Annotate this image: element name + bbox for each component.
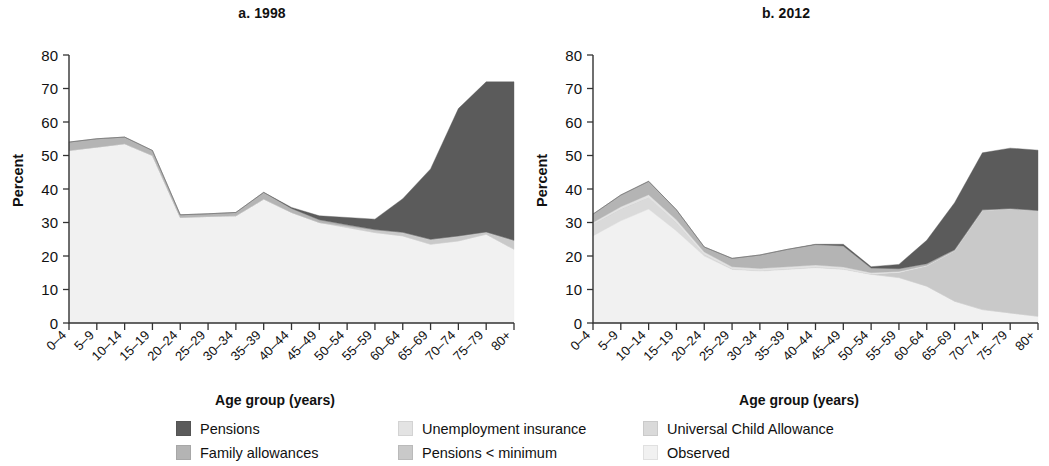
x-tick-label: 15–19 [640, 328, 676, 364]
legend-swatch-observed [643, 445, 658, 460]
legend-swatch-universal_child_allowance [643, 421, 658, 436]
y-tick-label: 10 [565, 281, 582, 298]
y-tick-label: 80 [41, 47, 58, 64]
chart-panel-a: a. 1998 Percent 010203040506070800–45–91… [0, 0, 524, 412]
x-tick-label: 50–54 [311, 328, 347, 364]
legend-item-unemployment_insurance[interactable]: Unemployment insurance [398, 418, 643, 439]
x-tick-label: 20–24 [144, 328, 180, 364]
figure-stacked-area-charts: a. 1998 Percent 010203040506070800–45–91… [0, 0, 1049, 466]
x-tick-label: 40–44 [779, 328, 815, 364]
panel-a-x-axis-label: Age group (years) [40, 392, 510, 408]
x-tick-label: 40–44 [255, 328, 291, 364]
legend-label-unemployment_insurance: Unemployment insurance [422, 421, 586, 437]
y-tick-label: 60 [565, 114, 582, 131]
legend-item-pensions[interactable]: Pensions [176, 418, 398, 439]
legend-swatch-unemployment_insurance [398, 421, 413, 436]
y-tick-label: 30 [41, 214, 58, 231]
legend-item-universal_child_allowance[interactable]: Universal Child Allowance [643, 418, 873, 439]
x-tick-label: 30–34 [200, 328, 236, 364]
y-tick-label: 10 [41, 281, 58, 298]
legend-item-pensions_below_minimum[interactable]: Pensions < minimum [398, 442, 643, 463]
legend-label-pensions: Pensions [200, 421, 260, 437]
legend-label-universal_child_allowance: Universal Child Allowance [667, 421, 834, 437]
y-tick-label: 70 [41, 80, 58, 97]
x-tick-label: 50–54 [835, 328, 871, 364]
x-tick-label: 70–74 [946, 328, 982, 364]
legend-column-2: Unemployment insurancePensions < minimum [398, 418, 643, 463]
x-tick-label: 15–19 [116, 328, 152, 364]
x-tick-label: 0–4 [567, 328, 593, 354]
x-tick-label: 55–59 [339, 328, 375, 364]
x-tick-label: 35–39 [752, 328, 788, 364]
x-tick-label: 25–29 [696, 328, 732, 364]
y-tick-label: 70 [565, 80, 582, 97]
legend-swatch-pensions_below_minimum [398, 445, 413, 460]
chart-panel-b: b. 2012 Percent 010203040506070800–45–91… [524, 0, 1048, 412]
legend-column-3: Universal Child AllowanceObserved [643, 418, 873, 463]
x-tick-label: 70–74 [422, 328, 458, 364]
x-tick-label: 10–14 [613, 328, 649, 364]
x-tick-label: 35–39 [228, 328, 264, 364]
legend-item-observed[interactable]: Observed [643, 442, 873, 463]
x-tick-label: 75–79 [450, 328, 486, 364]
legend-label-pensions_below_minimum: Pensions < minimum [422, 445, 557, 461]
x-tick-label: 45–49 [283, 328, 319, 364]
panel-b-plot: 010203040506070800–45–910–1415–1920–2425… [524, 0, 1048, 412]
y-tick-label: 50 [41, 147, 58, 164]
y-tick-label: 60 [41, 114, 58, 131]
x-tick-label: 75–79 [974, 328, 1010, 364]
y-tick-label: 20 [41, 248, 58, 265]
legend-column-1: PensionsFamily allowances [176, 418, 398, 463]
y-tick-label: 40 [565, 181, 582, 198]
legend-label-observed: Observed [667, 445, 730, 461]
panel-a-plot: 010203040506070800–45–910–1415–1920–2425… [0, 0, 524, 412]
x-tick-label: 55–59 [863, 328, 899, 364]
chart-panels: a. 1998 Percent 010203040506070800–45–91… [0, 0, 1049, 412]
x-tick-label: 60–64 [891, 328, 927, 364]
x-tick-label: 80+ [1012, 328, 1038, 354]
x-tick-label: 80+ [488, 328, 514, 354]
y-tick-label: 80 [565, 47, 582, 64]
y-tick-label: 40 [41, 181, 58, 198]
x-tick-label: 65–69 [919, 328, 955, 364]
legend-item-family_allowances[interactable]: Family allowances [176, 442, 398, 463]
x-tick-label: 10–14 [89, 328, 125, 364]
x-tick-label: 65–69 [395, 328, 431, 364]
x-tick-label: 30–34 [724, 328, 760, 364]
panel-b-x-axis-label: Age group (years) [564, 392, 1034, 408]
x-tick-label: 45–49 [807, 328, 843, 364]
chart-legend: PensionsFamily allowancesUnemployment in… [0, 418, 1049, 466]
y-tick-label: 50 [565, 147, 582, 164]
x-tick-label: 60–64 [367, 328, 403, 364]
x-tick-label: 20–24 [668, 328, 704, 364]
x-tick-label: 0–4 [43, 328, 69, 354]
legend-swatch-family_allowances [176, 445, 191, 460]
y-tick-label: 30 [565, 214, 582, 231]
legend-label-family_allowances: Family allowances [200, 445, 318, 461]
x-tick-label: 25–29 [172, 328, 208, 364]
y-tick-label: 20 [565, 248, 582, 265]
legend-swatch-pensions [176, 421, 191, 436]
